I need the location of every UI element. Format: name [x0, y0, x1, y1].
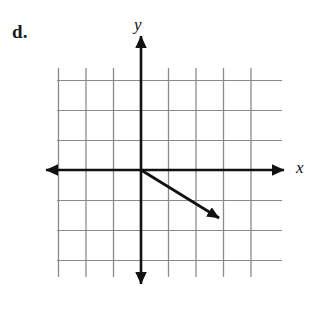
ray-vector [141, 170, 219, 218]
y-axis-label: y [134, 16, 142, 33]
graph-svg [0, 0, 323, 315]
coordinate-graph: y x [0, 0, 323, 315]
figure-canvas: d. [0, 0, 323, 315]
x-axis-label: x [296, 159, 304, 176]
grid-lines-vertical [59, 68, 252, 277]
